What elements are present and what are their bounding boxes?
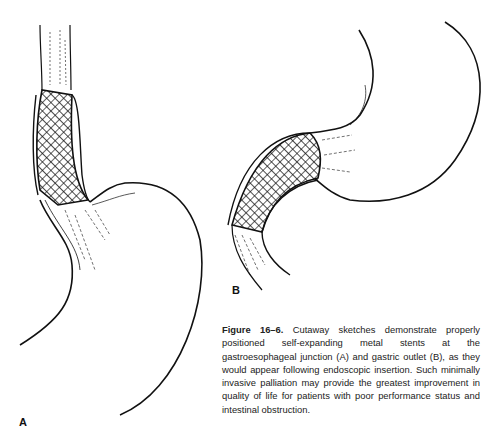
- caption-text: Cutaway sketches demonstrate properly po…: [222, 324, 480, 415]
- panel-b-drawing: [228, 22, 480, 290]
- figure-number: Figure 16–6.: [222, 324, 283, 335]
- panel-a-drawing: [20, 25, 202, 415]
- figure: A B Figure 16–6. Cutaway sketches demons…: [0, 0, 484, 438]
- figure-caption: Figure 16–6. Cutaway sketches demonstrat…: [222, 323, 480, 416]
- panel-label-b: B: [232, 284, 240, 296]
- panel-label-a: A: [19, 416, 27, 428]
